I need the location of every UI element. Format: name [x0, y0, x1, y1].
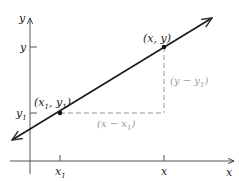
point-label-x-y: (x, y)	[143, 32, 171, 45]
horizontal-difference-label: (x − x1)	[97, 118, 135, 132]
x-tick-label-x1: x1	[55, 165, 66, 180]
point-x-y	[162, 45, 167, 50]
vertical-difference-label: (y − y1)	[170, 75, 208, 89]
y-tick-label-y1: y1	[15, 107, 27, 122]
line-diagram: y x y y1 x1 x (x1, y1) (x, y) (x − x1) (…	[0, 0, 239, 181]
y-tick-label-y: y	[19, 41, 27, 54]
point-x1-y1	[58, 111, 63, 116]
x-axis-label: x	[226, 166, 233, 179]
y-axis-label: y	[18, 12, 26, 25]
x-tick-label-x: x	[161, 165, 168, 178]
point-label-x1-y1: (x1, y1)	[34, 96, 71, 111]
